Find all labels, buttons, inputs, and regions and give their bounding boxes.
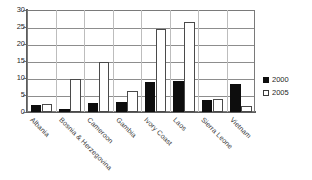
legend-item-label: 2005: [272, 89, 289, 97]
y-axis-tick-labels: 051015202530: [0, 0, 25, 180]
bar-group: [170, 10, 199, 112]
x-axis-category-label: Bosnia & Herzegovina: [58, 116, 113, 171]
filled-square-icon: [263, 77, 269, 83]
chart-screenshot: 051015202530 AlbaniaBosnia & Herzegovina…: [0, 0, 312, 180]
x-axis-category-label: Gambia: [115, 116, 138, 139]
bar-2000: [116, 102, 127, 112]
bar-2000: [202, 100, 213, 112]
bar-2005: [213, 99, 224, 112]
legend-item: 2000: [263, 73, 311, 86]
outlined-square-icon: [263, 90, 269, 96]
chart-legend: 20002005: [263, 73, 311, 99]
y-axis-tick-label: 10: [3, 74, 25, 82]
bar-group: [113, 10, 142, 112]
bar-group: [27, 10, 56, 112]
bar-2000: [88, 103, 99, 112]
bar-2000: [145, 82, 156, 112]
bar-2005: [184, 22, 195, 112]
x-axis-category-label: Albania: [29, 116, 51, 138]
bar-2005: [70, 79, 81, 112]
bar-2000: [173, 81, 184, 112]
y-axis-tick-label: 20: [3, 40, 25, 48]
bar-2000: [230, 84, 241, 112]
y-axis-tick-label: 30: [3, 6, 25, 14]
bar-group: [198, 10, 227, 112]
bar-2005: [127, 91, 138, 112]
y-axis-tick-label: 5: [3, 91, 25, 99]
bars-layer: [27, 10, 255, 112]
bar-group: [141, 10, 170, 112]
bar-group: [56, 10, 85, 112]
x-axis-category-label: Vietnam: [229, 116, 253, 140]
x-axis-category-labels: AlbaniaBosnia & HerzegovinaCameroonGambi…: [27, 112, 267, 180]
y-axis-tick-label: 15: [3, 57, 25, 65]
bar-group: [227, 10, 256, 112]
bar-group: [84, 10, 113, 112]
bar-2005: [42, 104, 53, 112]
bar-2005: [99, 62, 110, 112]
legend-item: 2005: [263, 86, 311, 99]
bar-2005: [156, 29, 167, 112]
x-axis-category-label: Ivory Coast: [143, 116, 174, 147]
x-axis-category-label: Laos: [172, 116, 188, 132]
legend-item-label: 2000: [272, 76, 289, 84]
x-axis-category-label: Cameroon: [86, 116, 115, 145]
y-axis-tick-label: 25: [3, 23, 25, 31]
bar-2000: [31, 105, 42, 112]
y-axis-tick-label: 0: [3, 108, 25, 116]
